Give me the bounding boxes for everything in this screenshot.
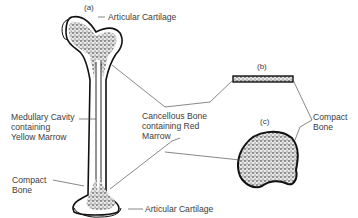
label-articular-cartilage-top: Articular Cartilage <box>108 12 176 22</box>
label-cancellous-bone: Cancellous Bone containing Red Marrow <box>142 111 207 141</box>
cross-section-b <box>233 76 293 82</box>
panel-label-b: (b) <box>257 62 267 72</box>
label-articular-cartilage-bottom: Articular Cartilage <box>145 204 213 214</box>
label-medullary-cavity: Medullary Cavity containing Yellow Marro… <box>11 112 75 142</box>
long-bone-diagram <box>0 0 358 218</box>
panel-label-c: (c) <box>260 117 269 127</box>
label-compact-bone-left: Compact Bone <box>12 175 46 195</box>
panel-label-a: (a) <box>84 3 94 13</box>
label-compact-bone-right: Compact Bone <box>313 112 347 132</box>
cross-section-c <box>238 132 298 187</box>
